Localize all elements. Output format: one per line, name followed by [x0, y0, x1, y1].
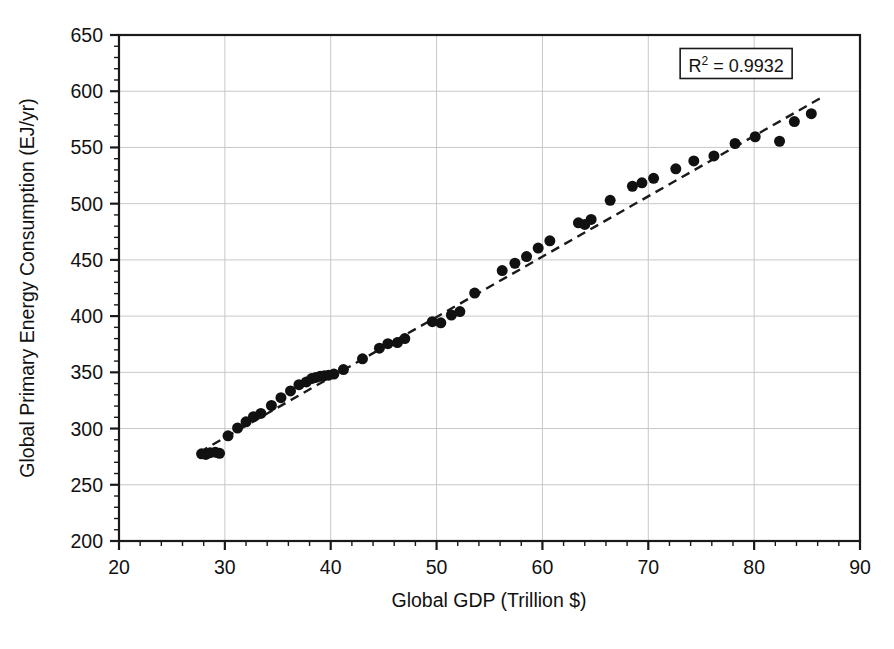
x-tick-label: 90: [849, 556, 871, 578]
figure-background: [0, 0, 894, 649]
y-tick-label: 600: [70, 80, 103, 102]
data-point: [688, 155, 699, 166]
data-point: [627, 181, 638, 192]
x-axis-title: Global GDP (Trillion $): [391, 589, 586, 611]
y-tick-label: 500: [70, 193, 103, 215]
data-point: [648, 173, 659, 184]
data-point: [636, 177, 647, 188]
data-point: [454, 306, 465, 317]
data-point: [605, 195, 616, 206]
data-point: [509, 258, 520, 269]
data-point: [708, 150, 719, 161]
data-point: [399, 333, 410, 344]
data-point: [774, 136, 785, 147]
data-point: [255, 408, 266, 419]
data-point: [533, 243, 544, 254]
data-point: [497, 265, 508, 276]
data-point: [223, 430, 234, 441]
data-point: [521, 251, 532, 262]
data-point: [789, 116, 800, 127]
chart-figure: 200250300350400450500550600650 203040506…: [0, 0, 894, 649]
data-point: [328, 369, 339, 380]
x-tick-label: 80: [743, 556, 765, 578]
data-point: [338, 364, 349, 375]
data-point: [435, 317, 446, 328]
x-tick-label: 70: [637, 556, 659, 578]
data-point: [214, 448, 225, 459]
x-tick-label: 40: [320, 556, 342, 578]
data-point: [750, 131, 761, 142]
y-tick-label: 450: [70, 249, 103, 271]
scatter-plot-svg: 200250300350400450500550600650 203040506…: [0, 0, 894, 649]
data-point: [730, 138, 741, 149]
r-squared-annotation: R2 = 0.9932: [680, 48, 792, 78]
y-tick-label: 200: [70, 530, 103, 552]
data-point: [357, 353, 368, 364]
x-tick-label: 50: [426, 556, 448, 578]
x-tick-label: 60: [532, 556, 554, 578]
y-tick-label: 300: [70, 418, 103, 440]
data-point: [544, 235, 555, 246]
x-tick-label: 20: [108, 556, 130, 578]
data-point: [586, 214, 597, 225]
y-axis-title: Global Primary Energy Consumption (EJ/yr…: [16, 98, 38, 477]
data-point: [670, 163, 681, 174]
data-point: [806, 108, 817, 119]
x-tick-label: 30: [214, 556, 236, 578]
data-point: [382, 338, 393, 349]
y-tick-label: 650: [70, 24, 103, 46]
data-point: [469, 288, 480, 299]
y-tick-label: 550: [70, 136, 103, 158]
y-tick-label: 350: [70, 361, 103, 383]
data-point: [275, 392, 286, 403]
y-tick-label: 250: [70, 474, 103, 496]
y-tick-label: 400: [70, 305, 103, 327]
data-point: [266, 400, 277, 411]
